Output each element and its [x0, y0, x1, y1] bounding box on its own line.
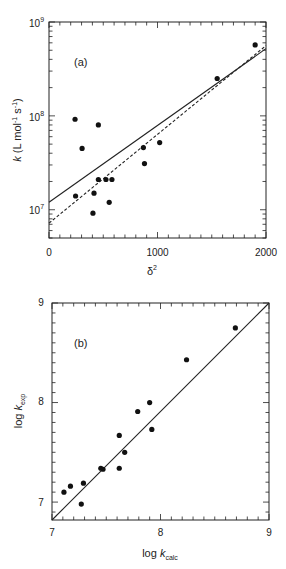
data-point — [135, 409, 140, 414]
data-point — [141, 145, 146, 150]
panel-b-data-points — [61, 325, 238, 506]
data-point — [117, 466, 122, 471]
data-point — [147, 400, 152, 405]
panel-a-label: (a) — [74, 56, 87, 68]
panel-a-xtick-1000: 1000 — [146, 247, 169, 258]
panel-b-label: (b) — [74, 337, 87, 349]
data-point — [157, 140, 162, 145]
figure: (a) 0 1000 2000 107 108 109 δ2 k (L mol-… — [0, 0, 286, 569]
data-point — [96, 177, 101, 182]
data-point — [96, 122, 101, 127]
data-point — [90, 211, 95, 216]
data-point — [184, 357, 189, 362]
panel-a-ticks — [49, 22, 266, 238]
data-point — [117, 433, 122, 438]
data-point — [233, 325, 238, 330]
panel-b-xtick-7: 7 — [49, 527, 55, 538]
panel-a-y-axis-label: k (L mol-1 s-1) — [11, 98, 23, 161]
data-point — [109, 177, 114, 182]
panel-b-ytick-8: 8 — [38, 396, 44, 407]
panel-a-ytick-1e8: 108 — [29, 110, 44, 123]
data-point — [68, 484, 73, 489]
panel-a-fit-lines — [49, 46, 266, 223]
panel-b-fit-lines — [52, 303, 269, 520]
panel-a-chart: (a) 0 1000 2000 107 108 109 δ2 k (L mol-… — [11, 16, 278, 277]
solid-fit-line — [52, 303, 269, 520]
data-point — [79, 146, 84, 151]
data-point — [100, 467, 105, 472]
data-point — [215, 76, 220, 81]
panel-a-plot-frame — [49, 22, 266, 238]
data-point — [81, 481, 86, 486]
panel-b-chart: (b) 7 8 9 7 8 9 log kcalc log kexp — [12, 297, 272, 561]
panel-b-xtick-9: 9 — [266, 527, 272, 538]
panel-b-ytick-7: 7 — [38, 497, 44, 508]
solid-fit-line — [49, 49, 266, 203]
data-point — [79, 501, 84, 506]
panel-b-ytick-9: 9 — [38, 297, 44, 308]
panel-a-xtick-0: 0 — [46, 247, 52, 258]
data-point — [122, 450, 127, 455]
panel-a-x-axis-label: δ2 — [147, 264, 157, 277]
data-point — [142, 161, 147, 166]
panel-a-data-points — [72, 42, 257, 215]
dashed-fit-line — [49, 46, 266, 223]
panel-a-xtick-2000: 2000 — [255, 247, 278, 258]
panel-b-xtick-8: 8 — [158, 527, 164, 538]
panel-b-x-axis-label: log kcalc — [142, 547, 178, 561]
panel-a-ytick-1e9: 109 — [29, 16, 44, 29]
data-point — [107, 200, 112, 205]
data-point — [103, 177, 108, 182]
panel-a-ytick-1e7: 107 — [29, 203, 44, 216]
data-point — [253, 42, 258, 47]
data-point — [73, 193, 78, 198]
data-point — [72, 117, 77, 122]
data-point — [149, 427, 154, 432]
data-point — [91, 191, 96, 196]
panel-b-y-axis-label: log kexp — [12, 394, 27, 429]
data-point — [61, 490, 66, 495]
